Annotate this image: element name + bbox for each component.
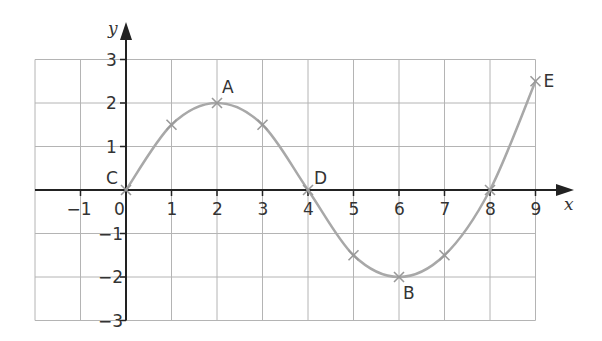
x-tick-label: 0	[114, 199, 125, 219]
x-tick-label: 2	[212, 199, 223, 219]
y-tick-label: 2	[106, 93, 117, 113]
point-label-e: E	[544, 71, 555, 91]
point-label-c: C	[106, 168, 118, 188]
x-tick-label: −1	[67, 199, 92, 219]
x-tick-label: 6	[394, 199, 405, 219]
x-axis-label: x	[564, 194, 574, 214]
x-tick-label: 3	[258, 199, 269, 219]
x-tick-label: 4	[303, 199, 314, 219]
x-tick-label: 1	[167, 199, 178, 219]
x-tick-label: 7	[440, 199, 451, 219]
data-point-markers	[121, 76, 541, 282]
y-tick-label: −1	[98, 224, 123, 244]
chart: xy −10123456789321−1−2−3 CADBE	[0, 0, 602, 341]
y-tick-label: 3	[106, 50, 117, 70]
y-tick-label: −3	[98, 311, 123, 331]
y-tick-label: 1	[106, 137, 117, 157]
y-axis-label: y	[107, 18, 118, 38]
x-tick-label: 5	[349, 199, 360, 219]
x-tick-label: 8	[485, 199, 496, 219]
point-label-a: A	[222, 77, 234, 97]
data-curve	[126, 81, 536, 277]
y-axis-arrow-icon	[120, 22, 132, 40]
y-tick-label: −2	[98, 267, 123, 287]
point-label-b: B	[403, 283, 415, 303]
x-tick-label: 9	[531, 199, 542, 219]
point-label-d: D	[314, 168, 327, 188]
